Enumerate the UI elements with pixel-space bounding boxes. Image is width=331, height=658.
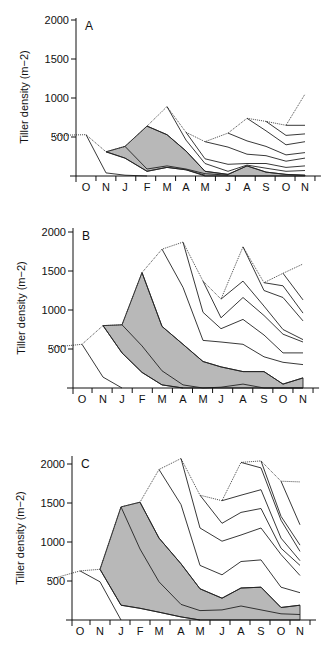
x-tick-label: A <box>237 625 245 637</box>
x-tick-label: M <box>157 393 166 405</box>
y-tick-label: 500 <box>47 575 65 587</box>
series-cohort-10 <box>266 121 305 135</box>
y-tick-label: 2000 <box>42 226 66 238</box>
y-tick-label: 1000 <box>41 536 65 548</box>
x-tick-label: N <box>96 625 104 637</box>
x-tick-label: J <box>225 181 231 193</box>
x-tick-label: M <box>162 181 171 193</box>
x-tick-label: O <box>82 181 91 193</box>
x-tick-label: F <box>139 393 146 405</box>
y-tick-label: 1000 <box>42 304 66 316</box>
y-tick-label: 1500 <box>41 497 65 509</box>
x-tick-label: O <box>279 393 288 405</box>
x-tick-label: A <box>182 181 190 193</box>
tiller-density-figure: 500100015002000ONJFMAMJASONATiller densi… <box>0 0 331 658</box>
series-cohort-9 <box>241 462 300 551</box>
x-tick-label: J <box>119 393 125 405</box>
x-tick-label: A <box>239 393 247 405</box>
series-cohort-7 <box>200 495 300 565</box>
shaded-cohort-region <box>106 126 305 176</box>
x-tick-label: J <box>122 181 128 193</box>
y-tick-label: 1500 <box>45 53 69 65</box>
series-cohort-11 <box>281 481 300 525</box>
x-tick-label: O <box>76 625 85 637</box>
y-tick-label: 1000 <box>45 92 69 104</box>
x-tick-label: M <box>195 625 204 637</box>
x-tick-label: N <box>299 393 307 405</box>
x-tick-label: N <box>99 393 107 405</box>
y-tick-label: 1500 <box>42 265 66 277</box>
series-envelope <box>51 242 303 347</box>
panel-C: 500100015002000ONJFMAMJASONCTiller densi… <box>14 456 316 637</box>
x-tick-label: S <box>260 393 267 405</box>
x-tick-label: M <box>200 181 209 193</box>
x-tick-label: J <box>218 393 224 405</box>
x-tick-label: M <box>154 625 163 637</box>
series-cohort-7 <box>205 142 305 162</box>
x-tick-label: N <box>296 625 304 637</box>
y-tick-label: 2000 <box>45 14 69 26</box>
shaded-cohort-region <box>100 502 300 620</box>
x-tick-label: S <box>262 181 269 193</box>
series-cohort-6 <box>181 459 300 576</box>
panel-B: 500100015002000ONJFMAMJASONBTiller densi… <box>15 226 319 405</box>
x-tick-label: O <box>282 181 291 193</box>
y-axis-label: Tiller density (m−2) <box>15 261 27 354</box>
x-tick-label: F <box>144 181 151 193</box>
x-tick-label: F <box>137 625 144 637</box>
x-tick-label: J <box>219 625 225 637</box>
x-tick-label: J <box>118 625 124 637</box>
series-cohort-11 <box>283 273 303 300</box>
panel-A: 500100015002000ONJFMAMJASONATiller densi… <box>18 14 321 193</box>
x-tick-label: O <box>78 393 87 405</box>
y-axis-label: Tiller density (m−2) <box>18 50 30 143</box>
panel-letter: A <box>85 19 93 33</box>
shaded-cohort-region <box>103 273 303 388</box>
series-cohort-9 <box>247 118 305 145</box>
series-envelope <box>54 94 305 152</box>
panel-letter: C <box>81 457 90 471</box>
x-tick-label: O <box>277 625 286 637</box>
series-cohort-1 <box>82 344 122 388</box>
y-tick-label: 500 <box>48 343 66 355</box>
x-tick-label: S <box>257 625 264 637</box>
x-tick-label: N <box>301 181 309 193</box>
x-tick-label: M <box>198 393 207 405</box>
series-cohort-8 <box>221 281 303 340</box>
series-cohort-7 <box>203 281 303 342</box>
y-tick-label: 2000 <box>41 458 65 470</box>
panel-letter: B <box>82 229 90 243</box>
x-tick-label: N <box>102 181 110 193</box>
y-axis-label: Tiller density (m−2) <box>14 491 26 584</box>
y-tick-label: 500 <box>51 131 69 143</box>
x-tick-label: A <box>177 625 185 637</box>
x-tick-label: A <box>179 393 187 405</box>
x-tick-label: A <box>243 181 251 193</box>
series-cohort-8 <box>222 490 300 561</box>
